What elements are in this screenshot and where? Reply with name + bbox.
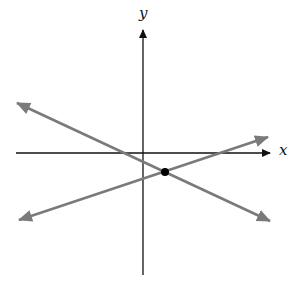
intersection-point — [161, 168, 169, 176]
x-axis-label: x — [279, 141, 287, 159]
y-axis-label: y — [139, 4, 147, 22]
coordinate-plane-diagram: y x — [0, 0, 300, 281]
diagram-svg — [0, 0, 300, 281]
